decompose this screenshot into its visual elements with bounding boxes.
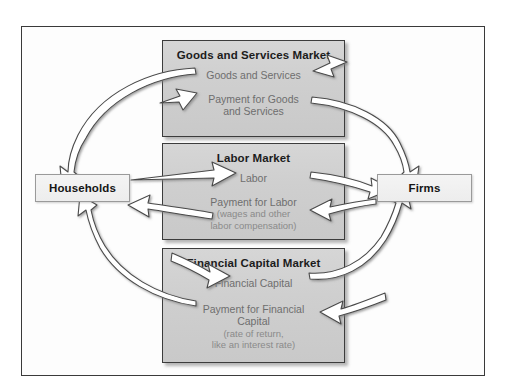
- goods-market-title: Goods and Services Market: [163, 48, 344, 62]
- households-label: Households: [49, 182, 116, 194]
- finance-market-title: Financial Capital Market: [163, 256, 344, 270]
- goods-flow-payment-line1: Payment for Goods: [163, 93, 344, 106]
- finance-flow-sub-line1: (rate of return,: [163, 328, 344, 340]
- goods-and-services-market-box: Goods and Services Market Goods and Serv…: [162, 40, 345, 137]
- labor-flow-payment-line1: Payment for Labor: [163, 196, 344, 209]
- goods-flow-payment-line2: and Services: [163, 105, 344, 118]
- financial-capital-market-box: Financial Capital Market Financial Capit…: [162, 248, 345, 363]
- labor-market-title: Labor Market: [163, 151, 344, 165]
- households-box: Households: [35, 174, 130, 202]
- finance-flow-payment-line2: Capital: [163, 315, 344, 328]
- labor-flow-sub-line1: (wages and other: [163, 208, 344, 220]
- finance-flow-payment-line1: Payment for Financial: [163, 303, 344, 316]
- circular-flow-diagram: Goods and Services Market Goods and Serv…: [0, 0, 507, 392]
- labor-flow-sub-line2: labor compensation): [163, 220, 344, 232]
- goods-flow-real: Goods and Services: [163, 69, 344, 82]
- finance-flow-real: Financial Capital: [163, 277, 344, 290]
- labor-market-box: Labor Market Labor Payment for Labor (wa…: [162, 143, 345, 240]
- finance-flow-sub-line2: like an interest rate): [163, 339, 344, 351]
- firms-box: Firms: [377, 174, 472, 202]
- labor-flow-real: Labor: [163, 172, 344, 185]
- firms-label: Firms: [409, 182, 441, 194]
